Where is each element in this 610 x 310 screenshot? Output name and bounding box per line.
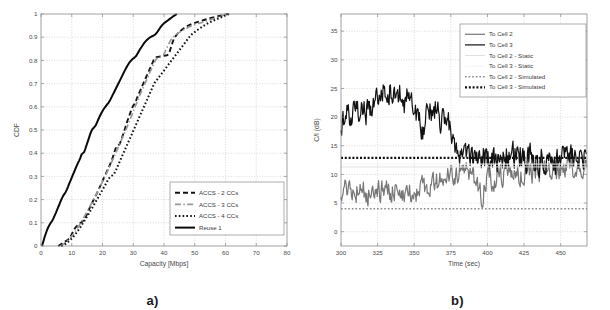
x-tick-label: 60 <box>222 249 229 256</box>
x-tick-label: 70 <box>253 249 260 256</box>
cdf-capacity-chart: 0102030405060708000.10.20.30.40.50.60.70… <box>0 0 305 272</box>
x-tick-label: 425 <box>519 249 530 256</box>
legend: ACCS - 2 CCsACCS - 3 CCsACCS - 4 CCsReus… <box>170 182 284 235</box>
ci-timeseries-chart: 30032535037540042545005101520253035Time … <box>305 0 610 272</box>
y-tick-label: 25 <box>331 85 338 92</box>
x-tick-label: 40 <box>161 249 168 256</box>
x-tick-label: 400 <box>482 249 493 256</box>
figure-container: 0102030405060708000.10.20.30.40.50.60.70… <box>0 0 610 310</box>
y-tick-label: 15 <box>331 142 338 149</box>
legend-label-4: To Cell 2 - Simulated <box>489 73 545 80</box>
series-group <box>341 85 587 209</box>
y-axis-title: C/I (dB) <box>313 118 321 141</box>
panel-b-ci-timeseries: 30032535037540042545005101520253035Time … <box>305 0 610 310</box>
y-tick-label: 0.9 <box>29 33 38 40</box>
legend-label-0: To Cell 2 <box>489 30 513 37</box>
x-axis-title: Capacity [Mbps] <box>140 260 189 268</box>
x-axis-title: Time (sec) <box>448 260 480 268</box>
x-tick-label: 10 <box>68 249 75 256</box>
y-tick-label: 1 <box>34 10 38 17</box>
legend-label-5: To Cell 3 - Simulated <box>489 83 545 90</box>
legend-label-3: To Cell 3 - Static <box>489 62 533 69</box>
legend-label-0: ACCS - 2 CCs <box>199 189 238 196</box>
y-tick-label: 35 <box>331 27 338 34</box>
x-tick-label: 20 <box>99 249 106 256</box>
y-tick-label: 0 <box>34 242 38 249</box>
x-tick-label: 80 <box>284 249 291 256</box>
y-tick-label: 0.1 <box>29 219 38 226</box>
y-tick-label: 30 <box>331 56 338 63</box>
x-tick-label: 0 <box>39 249 43 256</box>
y-tick-label: 0.5 <box>29 126 38 133</box>
y-tick-label: 0.7 <box>29 80 38 87</box>
x-tick-label: 450 <box>555 249 566 256</box>
legend-label-1: ACCS - 3 CCs <box>199 201 238 208</box>
y-tick-label: 20 <box>331 113 338 120</box>
y-tick-label: 0.6 <box>29 103 38 110</box>
y-axis-title: CDF <box>13 123 20 137</box>
panel-a-cdf-capacity: 0102030405060708000.10.20.30.40.50.60.70… <box>0 0 305 310</box>
panel-b-caption: b) <box>305 293 610 308</box>
series-line-0 <box>341 157 587 207</box>
y-tick-label: 0 <box>334 228 338 235</box>
legend: To Cell 2To Cell 3To Cell 2 - StaticTo C… <box>460 24 586 97</box>
y-tick-label: 5 <box>334 199 338 206</box>
legend-label-2: ACCS - 4 CCs <box>199 212 238 219</box>
legend-label-3: Reuse 1 <box>199 224 222 231</box>
x-tick-label: 375 <box>446 249 457 256</box>
x-tick-label: 300 <box>336 249 347 256</box>
y-tick-label: 0.3 <box>29 173 38 180</box>
x-tick-label: 325 <box>372 249 383 256</box>
y-tick-label: 10 <box>331 171 338 178</box>
legend-label-1: To Cell 3 <box>489 41 513 48</box>
y-tick-label: 0.4 <box>29 149 38 156</box>
legend-label-2: To Cell 2 - Static <box>489 52 533 59</box>
y-tick-label: 0.2 <box>29 196 38 203</box>
x-tick-label: 50 <box>191 249 198 256</box>
panel-a-caption: a) <box>0 293 305 308</box>
x-tick-label: 30 <box>130 249 137 256</box>
y-tick-label: 0.8 <box>29 57 38 64</box>
x-tick-label: 350 <box>409 249 420 256</box>
